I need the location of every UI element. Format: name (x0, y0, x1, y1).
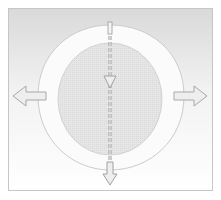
diagram-svg (0, 0, 221, 200)
diagram-canvas (0, 0, 221, 200)
